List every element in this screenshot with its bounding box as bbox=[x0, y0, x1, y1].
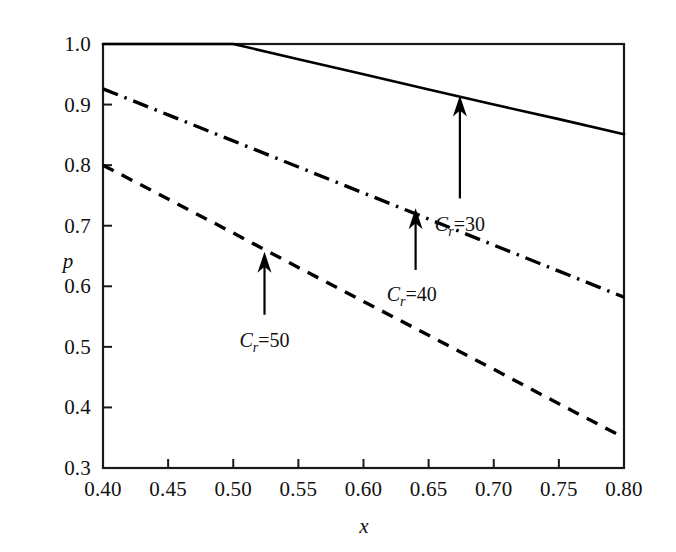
curve-annotation: Cr=30 bbox=[435, 95, 485, 238]
x-tick-label: 0.70 bbox=[475, 477, 513, 501]
line-chart: 0.400.450.500.550.600.650.700.750.80 0.3… bbox=[0, 0, 676, 552]
curve-annotation: Cr=50 bbox=[239, 252, 289, 355]
series-line bbox=[103, 89, 624, 297]
x-tick-label: 0.60 bbox=[345, 477, 383, 501]
y-tick-label: 0.9 bbox=[64, 93, 91, 117]
x-tick-label: 0.65 bbox=[410, 477, 448, 501]
data-series-group bbox=[103, 44, 624, 438]
x-axis-ticks bbox=[168, 459, 559, 468]
curve-annotation: Cr=40 bbox=[387, 208, 437, 309]
x-axis-title: x bbox=[358, 514, 369, 538]
y-tick-label: 0.8 bbox=[64, 153, 91, 177]
plot-frame bbox=[103, 44, 624, 468]
x-tick-label: 0.50 bbox=[214, 477, 252, 501]
y-tick-label: 1.0 bbox=[64, 32, 91, 56]
annotation-group: Cr=30Cr=40Cr=50 bbox=[239, 95, 484, 354]
y-axis-ticks bbox=[103, 105, 112, 408]
x-tick-label: 0.80 bbox=[605, 477, 643, 501]
y-tick-label: 0.3 bbox=[64, 456, 91, 480]
annotation-label: Cr=50 bbox=[239, 329, 289, 355]
y-tick-label: 0.6 bbox=[64, 274, 91, 298]
x-tick-label: 0.40 bbox=[84, 477, 122, 501]
x-tick-label: 0.75 bbox=[540, 477, 578, 501]
y-axis-title: p bbox=[61, 249, 74, 273]
y-tick-label: 0.5 bbox=[64, 335, 91, 359]
chart-figure: 0.400.450.500.550.600.650.700.750.80 0.3… bbox=[0, 0, 676, 552]
annotation-label: Cr=30 bbox=[435, 213, 485, 239]
y-tick-label: 0.7 bbox=[64, 214, 91, 238]
series-line bbox=[103, 165, 624, 438]
series-line bbox=[103, 44, 624, 134]
y-tick-label: 0.4 bbox=[64, 395, 91, 419]
x-axis-tick-labels: 0.400.450.500.550.600.650.700.750.80 bbox=[84, 477, 643, 501]
x-tick-label: 0.55 bbox=[280, 477, 318, 501]
annotation-label: Cr=40 bbox=[387, 283, 437, 309]
x-tick-label: 0.45 bbox=[149, 477, 187, 501]
